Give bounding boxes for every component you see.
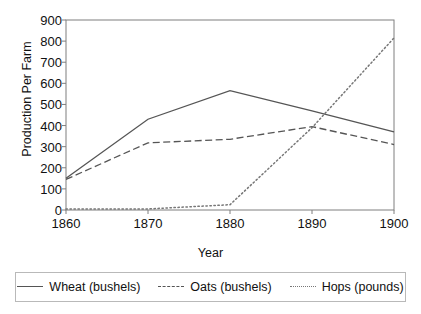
chart-container: Production Per Farm 900 800 700 600 500 … — [0, 0, 421, 314]
legend-item-wheat: Wheat (bushels) — [17, 280, 140, 294]
x-axis-ticks — [66, 210, 394, 214]
x-tick-label: 1860 — [36, 216, 96, 231]
legend-label: Hops (pounds) — [322, 280, 404, 294]
legend-swatch-dotted-icon — [290, 286, 316, 289]
plot-area — [0, 0, 421, 314]
legend-swatch-solid-icon — [17, 286, 43, 289]
x-tick-label: 1880 — [200, 216, 260, 231]
chart-legend: Wheat (bushels) Oats (bushels) Hops (pou… — [15, 272, 406, 302]
x-tick-label: 1890 — [282, 216, 342, 231]
legend-item-oats: Oats (bushels) — [158, 280, 271, 294]
x-axis-title: Year — [0, 246, 421, 260]
y-axis-ticks — [62, 20, 66, 210]
legend-label: Oats (bushels) — [190, 280, 271, 294]
x-tick-label: 1870 — [118, 216, 178, 231]
legend-label: Wheat (bushels) — [49, 280, 140, 294]
legend-swatch-dashed-icon — [158, 286, 184, 289]
axis-frame — [66, 20, 394, 210]
x-tick-label: 1900 — [364, 216, 421, 231]
legend-item-hops: Hops (pounds) — [290, 280, 404, 294]
